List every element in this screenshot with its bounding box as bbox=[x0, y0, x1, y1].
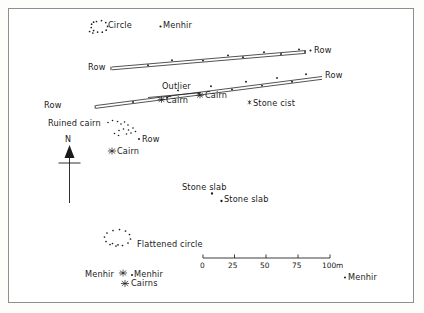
scale-tick-0: 0 bbox=[200, 261, 205, 270]
label-menhir-top: Menhir bbox=[163, 20, 192, 30]
label-menhir-left: Menhir bbox=[85, 269, 114, 279]
scale-tick-25: 25 bbox=[228, 261, 237, 270]
label-flattened-circle: Flattened circle bbox=[137, 239, 203, 249]
scale-tick-50: 50 bbox=[260, 261, 269, 270]
label-circle: Circle bbox=[108, 20, 132, 30]
label-menhir-right: Menhir bbox=[348, 272, 377, 282]
site-plan-figure: Circle Menhir Row Row Row Outlier Cairn … bbox=[0, 0, 424, 313]
figure-border bbox=[8, 8, 414, 303]
label-cairn-b: Cairn bbox=[205, 90, 227, 100]
north-arrow-label: N bbox=[65, 135, 71, 144]
label-cairns: Cairns bbox=[131, 278, 158, 288]
label-row-right-upper: Row bbox=[314, 45, 331, 55]
label-stone-slab-2: Stone slab bbox=[224, 194, 269, 204]
label-cairn-c: Cairn bbox=[117, 146, 139, 156]
label-stone-cist: Stone cist bbox=[253, 98, 295, 108]
label-cairn-a: Cairn bbox=[166, 95, 188, 105]
label-row-left-lower: Row bbox=[44, 100, 61, 110]
label-outlier: Outlier bbox=[162, 81, 191, 91]
label-row-left-upper: Row bbox=[88, 62, 105, 72]
label-row-small: Row bbox=[142, 134, 159, 144]
scale-end-label: 100m bbox=[322, 261, 343, 270]
scale-tick-75: 75 bbox=[292, 261, 301, 270]
label-stone-slab-1: Stone slab bbox=[182, 182, 227, 192]
label-ruined-cairn: Ruined cairn bbox=[48, 118, 101, 128]
label-row-right-middle: Row bbox=[325, 70, 342, 80]
